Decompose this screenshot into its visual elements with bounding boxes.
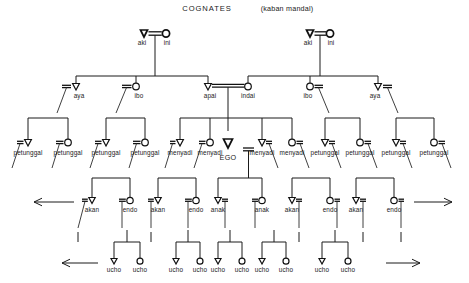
node-endo-4: endo	[387, 197, 404, 228]
node-label-ucho: ucho	[279, 266, 294, 273]
node-label-petunggal: petunggal	[420, 149, 449, 157]
node-ucho-3: ucho	[169, 259, 184, 274]
symbol-male-triangle	[215, 259, 221, 265]
node-label-akan: akan	[285, 206, 300, 213]
symbol-female-circle	[127, 197, 133, 203]
symbol-male-triangle	[375, 84, 382, 91]
symbol-female-circle	[137, 258, 143, 264]
symbol-female-circle	[193, 197, 199, 203]
ego-label: EGO	[220, 153, 237, 162]
node-ego: EGO	[220, 139, 254, 178]
node-ibo-left: ibo	[116, 83, 144, 113]
symbol-female-circle	[162, 30, 169, 37]
symbol-male-triangle	[307, 30, 314, 37]
symbol-male-triangle	[177, 140, 184, 147]
symbol-male-triangle	[215, 198, 221, 204]
symbol-male-triangle	[259, 259, 265, 265]
node-label-anak: anak	[255, 206, 270, 213]
node-ucho-1: ucho	[107, 259, 122, 274]
symbol-female-circle	[283, 258, 289, 264]
node-anak-2: anak	[252, 197, 270, 228]
symbol-male-triangle	[89, 198, 95, 204]
node-endo-3: endo	[323, 197, 340, 228]
symbol-female-circle	[259, 197, 265, 203]
continuation-arrow-right-g4	[414, 198, 452, 206]
arrow-head-lower	[412, 263, 420, 267]
node-ucho-10: ucho	[341, 258, 356, 273]
node-label-ucho: ucho	[315, 266, 330, 273]
node-apai: apai	[204, 84, 216, 101]
node-label-ini: ini	[328, 39, 335, 46]
node-label-endo: endo	[123, 206, 138, 213]
symbol-female-circle	[207, 139, 214, 146]
arrow-head-lower	[62, 263, 70, 267]
symbol-female-circle	[245, 83, 252, 90]
continuation-arrow-right-g5	[386, 259, 420, 267]
node-label-endo: endo	[323, 206, 338, 213]
spouse-descent	[319, 88, 330, 113]
node-label-ucho: ucho	[341, 266, 356, 273]
node-petunggal-2: petunggal	[52, 139, 82, 168]
node-indai: indai	[241, 83, 255, 99]
symbol-male-triangle	[322, 140, 329, 147]
node-petunggal-7: petunggal	[382, 140, 412, 169]
arrow-head-upper	[444, 198, 452, 202]
node-label-petunggal: petunggal	[92, 149, 121, 157]
symbol-male-triangle	[319, 259, 325, 265]
symbol-female-circle	[307, 83, 314, 90]
node-anak-1: anak	[211, 198, 228, 229]
symbol-male-triangle	[155, 198, 161, 204]
node-label-akan: akan	[151, 206, 166, 213]
symbol-male-triangle	[393, 140, 400, 147]
node-endo-1: endo	[119, 197, 138, 228]
spouse-descent	[116, 88, 127, 113]
node-petunggal-4: petunggal	[129, 139, 159, 168]
node-label-aki: aki	[304, 39, 312, 46]
couple-right-g1: aki ini	[304, 30, 335, 76]
node-ucho-6: ucho	[235, 258, 250, 273]
continuation-arrow-left-g4	[34, 198, 74, 206]
arrow-head-upper	[412, 259, 420, 263]
node-label-indai: indai	[241, 92, 255, 99]
symbol-male-triangle	[353, 198, 359, 204]
node-label-ibo: ibo	[135, 92, 144, 99]
spouse-descent	[57, 88, 67, 113]
node-label-ucho: ucho	[133, 266, 148, 273]
kinship-diagram: COGNATES (kaban mandal) aki ini aki ini	[0, 0, 469, 283]
sibship-bar-right-g2	[248, 76, 378, 83]
page-subtitle: (kaban mandal)	[261, 4, 314, 13]
symbol-female-circle	[133, 83, 140, 90]
node-label-endo: endo	[387, 206, 402, 213]
node-label-ucho: ucho	[193, 266, 208, 273]
symbol-female-circle	[391, 197, 397, 203]
node-label-petunggal: petunggal	[346, 149, 375, 157]
node-aya-right: aya	[370, 84, 398, 114]
node-label-menyadi: menyadi	[168, 149, 193, 157]
marriage-apai-indai	[212, 84, 245, 131]
symbol-female-circle	[289, 139, 296, 146]
symbol-male-triangle	[25, 140, 32, 147]
node-menyadi-4: menyadi	[280, 139, 309, 168]
node-ucho-5: ucho	[211, 259, 226, 274]
symbol-male-triangle	[289, 198, 295, 204]
sibship-bars-g3	[28, 118, 434, 139]
page-title: COGNATES	[182, 4, 231, 13]
symbol-female-circle	[327, 197, 333, 203]
node-label-ucho: ucho	[235, 266, 250, 273]
sibship-bars-g5	[78, 230, 401, 258]
symbol-female-circle	[239, 258, 245, 264]
node-label-petunggal: petunggal	[54, 149, 83, 157]
genealogy-canvas: COGNATES (kaban mandal) aki ini aki ini	[0, 0, 469, 283]
node-label-anak: anak	[211, 206, 226, 213]
node-label-petunggal: petunggal	[131, 149, 160, 157]
symbol-male-triangle	[103, 140, 110, 147]
node-label-ucho: ucho	[169, 266, 184, 273]
couple-left-g1: aki ini	[138, 30, 171, 76]
node-endo-2: endo	[185, 197, 204, 228]
node-ucho-7: ucho	[255, 259, 270, 274]
node-ucho-2: ucho	[133, 258, 148, 273]
node-label-aya: aya	[74, 92, 85, 100]
node-ibo-right: ibo	[304, 83, 329, 113]
symbol-male-triangle	[111, 259, 117, 265]
node-ucho-4: ucho	[193, 258, 208, 273]
